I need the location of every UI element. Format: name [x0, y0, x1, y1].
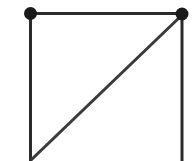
diagram-svg	[0, 0, 196, 161]
top-right-vertex	[176, 8, 189, 21]
diagram-canvas	[0, 0, 196, 161]
top-left-vertex	[24, 7, 37, 20]
